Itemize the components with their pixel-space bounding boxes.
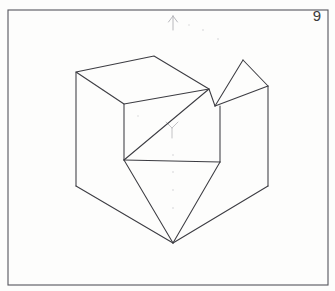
faint-y-pencil-mark bbox=[166, 122, 178, 138]
sketch-page: 9 bbox=[0, 0, 335, 291]
isometric-sketch-canvas bbox=[0, 0, 335, 291]
figure-number-label: 9 bbox=[313, 8, 321, 23]
wedge-base-to-right bbox=[209, 89, 215, 106]
faint-pencil-dots bbox=[102, 24, 219, 209]
notch-horizontal-ledge bbox=[124, 160, 220, 162]
wedge-left-edge bbox=[215, 60, 243, 106]
bottom-vee-left bbox=[124, 160, 173, 243]
sketch-line-group bbox=[76, 56, 268, 243]
drawing-border bbox=[8, 10, 328, 285]
wedge-top-edge bbox=[243, 60, 268, 86]
wedge-inner-diagonal bbox=[215, 86, 268, 106]
notch-slant-from-top-junction bbox=[124, 89, 209, 160]
cube-top-face bbox=[76, 56, 209, 104]
bottom-vee-right bbox=[173, 162, 220, 243]
up-direction-arrow-icon bbox=[169, 16, 178, 30]
cube-bottom-left-diagonal bbox=[76, 186, 173, 243]
cube-bottom-right-diagonal bbox=[173, 186, 268, 243]
